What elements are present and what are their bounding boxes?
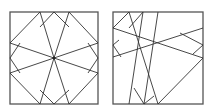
- right-tiling-edge: [113, 40, 119, 45]
- center-point: [53, 57, 56, 60]
- right-tiling-edge: [129, 12, 158, 104]
- right-tiling-edge: [144, 96, 154, 104]
- right-tiling-edge: [113, 45, 121, 57]
- right-tiling-edge: [113, 12, 129, 28]
- left-tiling-edge: [69, 12, 98, 43]
- right-tiling-edge: [144, 12, 158, 104]
- left-tiling-edge: [54, 58, 98, 73]
- left-tiling-edge: [10, 43, 20, 58]
- geometric-diagram: [0, 0, 214, 112]
- right-tiling-edge: [193, 45, 203, 54]
- left-tiling-edge: [10, 73, 40, 104]
- left-tiling-edge: [69, 73, 98, 104]
- right-square-frame: [113, 12, 203, 104]
- right-tiling-edge: [158, 58, 203, 104]
- right-tiling-edge: [134, 88, 144, 104]
- left-tiling-edge: [10, 43, 54, 58]
- right-square-tiling: [113, 12, 203, 104]
- left-tiling-edge: [10, 58, 20, 73]
- left-tiling-edge: [54, 43, 98, 58]
- left-tiling-edge: [10, 12, 40, 43]
- right-tiling-edge: [180, 33, 203, 45]
- left-tiling-edge: [88, 43, 98, 58]
- left-square-tiling: [10, 12, 98, 104]
- left-tiling-edge: [10, 58, 54, 73]
- left-tiling-edge: [88, 58, 98, 73]
